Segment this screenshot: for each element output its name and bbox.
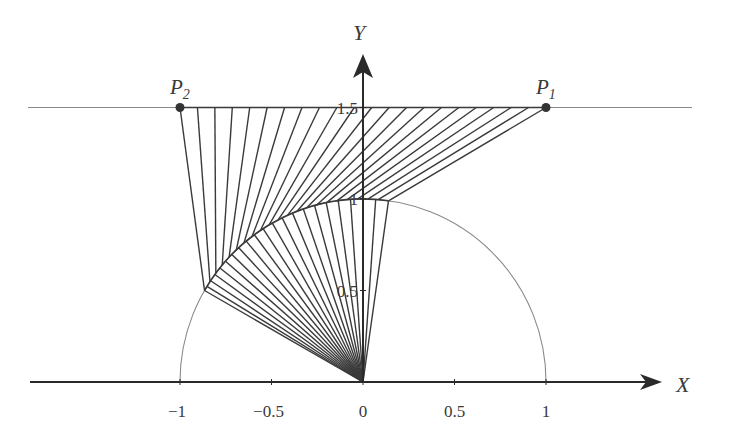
upper-fan-line [278, 108, 354, 220]
fan-construction-diagram: −1−0.500.510.511.5 P2P1 X Y [0, 0, 729, 438]
y-axis-label: Y [353, 20, 368, 45]
x-tick-label: −0.5 [253, 402, 284, 421]
upper-fan-line [180, 108, 205, 291]
point-marker [542, 103, 551, 112]
x-tick-label: −1 [168, 402, 186, 421]
upper-fan-line [368, 108, 511, 200]
point-label: P2 [169, 75, 190, 102]
point-label: P1 [535, 75, 556, 102]
upper-fan-line [378, 108, 528, 200]
point-marker [176, 103, 185, 112]
upper-fan-line [215, 108, 216, 274]
lower-fan-line [272, 223, 363, 382]
lower-fan-line [363, 201, 388, 382]
x-tick-label: 0 [359, 402, 368, 421]
arc-edge [205, 199, 389, 290]
y-tick-label: 1 [350, 190, 359, 209]
x-axis [30, 374, 662, 390]
x-tick-label: 1 [542, 402, 551, 421]
lower-fan-line [263, 229, 363, 382]
upper-fan-line [347, 108, 476, 200]
x-axis-label: X [675, 372, 691, 397]
y-tick-label: 1.5 [337, 99, 358, 118]
y-tick-label: 0.5 [337, 282, 358, 301]
x-tick-label: 0.5 [444, 402, 465, 421]
